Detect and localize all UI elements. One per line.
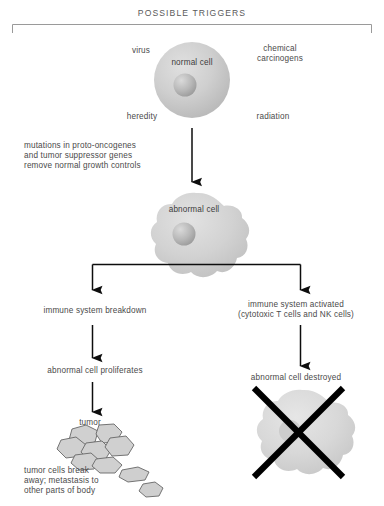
trigger-label-chemical-carcinogens: chemical carcinogens bbox=[244, 44, 316, 64]
trigger-label-radiation: radiation bbox=[246, 112, 300, 122]
cancer-development-flowchart-graphics bbox=[0, 0, 384, 506]
diagram-canvas: POSSIBLE TRIGGERS virus chemical carcino… bbox=[0, 0, 384, 506]
node-label-immune-system-activated: immune system activated (cytotoxic T cel… bbox=[212, 300, 380, 320]
node-label-abnormal-cell: abnormal cell bbox=[158, 205, 230, 215]
trigger-label-virus: virus bbox=[120, 46, 162, 56]
node-label-mutations: mutations in proto-oncogenes and tumor s… bbox=[24, 141, 184, 172]
trigger-label-heredity: heredity bbox=[118, 112, 166, 122]
page-title: POSSIBLE TRIGGERS bbox=[0, 8, 384, 18]
node-label-immune-system-breakdown: immune system breakdown bbox=[10, 306, 180, 316]
node-label-abnormal-cell-destroyed: abnormal cell destroyed bbox=[216, 373, 376, 383]
node-label-tumor: tumor bbox=[60, 418, 120, 428]
possible-triggers-bracket bbox=[13, 25, 372, 34]
node-label-metastasis: tumor cells break away; metastasis to ot… bbox=[24, 466, 134, 497]
normal-cell-illustration bbox=[154, 42, 230, 118]
node-label-normal-cell: normal cell bbox=[156, 58, 228, 68]
node-label-abnormal-cell-proliferates: abnormal cell proliferates bbox=[12, 366, 178, 376]
